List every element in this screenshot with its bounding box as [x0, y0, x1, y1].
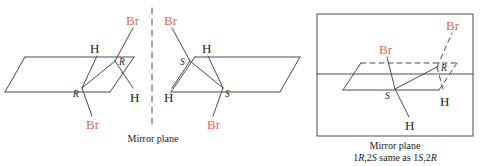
ss-h-bottom-label: H [164, 91, 173, 104]
meso-caption-line-1: Mirror plane [315, 140, 475, 152]
meso-br-upper-right-label: Br [446, 19, 459, 32]
ss-stereo-bottom-label: S [225, 90, 230, 100]
left-mirror-plane-caption: Mirror plane [113, 133, 193, 145]
ss-br-top-label: Br [164, 14, 177, 27]
rr-h-top-label: H [90, 42, 99, 55]
rr-plane-parallelogram [5, 57, 134, 92]
meso-h-right-label: H [440, 95, 449, 108]
meso-caption-r2: R [431, 152, 437, 163]
meso-caption-mid2: same as 1 [377, 152, 418, 163]
rr-stereo-bottom-label: R [73, 90, 79, 100]
meso-caption-mid1: ,2 [364, 152, 372, 163]
rr-h-bottom-label: H [130, 91, 139, 104]
rr-br-top-label: Br [126, 14, 139, 27]
meso-stereo-s-label: S [385, 92, 390, 102]
ss-bonds [172, 28, 223, 116]
rr-br-bottom-label: Br [86, 118, 99, 131]
ss-br-bottom-label: Br [207, 118, 220, 131]
ss-h-top-label: H [202, 42, 211, 55]
rr-stereo-top-label: R [119, 58, 125, 68]
meso-stereo-r-label: R [441, 64, 447, 74]
ss-stereo-top-label: S [180, 58, 185, 68]
meso-caption-line-2: 1R,2S same as 1S,2R [315, 152, 475, 164]
meso-plane-front-edges [343, 63, 439, 90]
meso-br-inner-label: Br [379, 43, 392, 56]
figure-canvas: Br H R R H Br Br H S S H Br Mirror plane… [0, 0, 489, 166]
meso-caption-mid3: ,2 [423, 152, 431, 163]
meso-h-bottom-label: H [405, 119, 414, 132]
ss-plane-parallelogram [171, 57, 300, 92]
